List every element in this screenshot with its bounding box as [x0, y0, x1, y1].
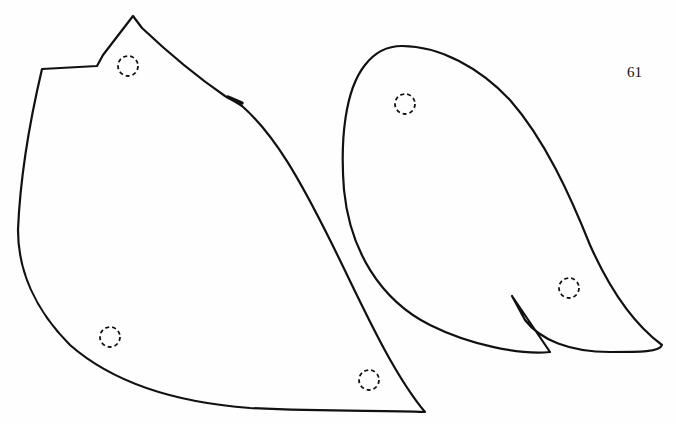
placement-marker-5 [559, 278, 579, 298]
pattern-drawing [0, 0, 676, 424]
placement-marker-4 [395, 94, 415, 114]
pattern-page: 61 [0, 0, 676, 424]
placement-marker-1 [118, 56, 138, 76]
placement-marker-2 [100, 327, 120, 347]
page-number: 61 [627, 64, 642, 81]
left-pattern-piece-outline [18, 16, 425, 412]
placement-marker-3 [359, 370, 379, 390]
right-pattern-piece-outline [343, 46, 662, 353]
